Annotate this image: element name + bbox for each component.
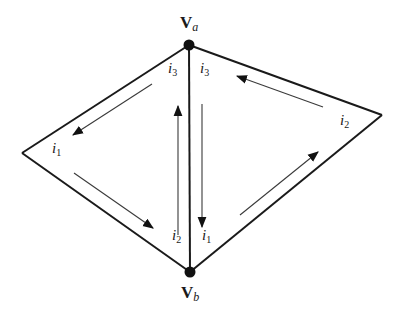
edge-left-vb <box>22 153 190 272</box>
left-label-i2: i2 <box>172 228 181 245</box>
arrow-left-i1-to-i2 <box>74 173 153 228</box>
vertex-label-va: Va <box>180 14 198 33</box>
arrow-right-i2-to-i3 <box>237 76 323 107</box>
right-label-i3: i3 <box>200 61 209 78</box>
vertex-vb-sub: b <box>193 290 199 304</box>
right-label-i2: i2 <box>340 113 349 130</box>
vertex-label-vb: Vb <box>181 284 199 303</box>
left-label-i3: i3 <box>168 61 177 78</box>
label-sub: 3 <box>172 67 177 78</box>
left-label-i1: i1 <box>52 141 61 158</box>
edge-right-vb <box>190 115 382 272</box>
label-sub: 1 <box>56 147 61 158</box>
right-triangle-arrows <box>202 76 323 227</box>
node-vb <box>185 267 196 278</box>
arrow-right-i1-to-i2 <box>240 152 318 215</box>
vertex-va-main: V <box>180 13 192 32</box>
right-label-i1: i1 <box>202 228 211 245</box>
label-sub: 2 <box>344 119 349 130</box>
edge-va-right <box>189 45 382 115</box>
label-sub: 1 <box>206 234 211 245</box>
vertex-vb-main: V <box>181 283 193 302</box>
edge-va-left <box>22 45 189 153</box>
node-va <box>184 40 195 51</box>
label-sub: 3 <box>204 67 209 78</box>
left-triangle-arrows <box>73 84 178 235</box>
vertex-va-sub: a <box>192 20 198 34</box>
arrow-left-i3-to-i1 <box>73 84 152 135</box>
edge-va-vb-shared <box>189 45 190 272</box>
label-sub: 2 <box>176 234 181 245</box>
